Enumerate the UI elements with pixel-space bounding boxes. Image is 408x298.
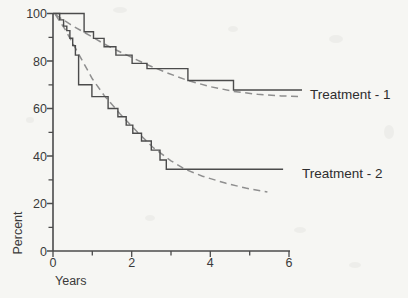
y-tick-label-80: 80 [33,55,47,69]
y-tick-label-60: 60 [33,102,47,116]
x-axis-title: Years [55,274,87,288]
x-tick-label-4: 4 [207,256,214,270]
y-tick-label-20: 20 [33,197,47,211]
scan-artifacts [26,7,394,268]
x-tick-label-2: 2 [128,256,135,270]
y-tick-label-100: 100 [26,7,47,21]
survival-chart: 100 80 60 40 20 0 0 2 4 6 Percent Years … [0,0,408,298]
treatment-2-km-curve [53,14,283,170]
treatment-1-label: Treatment - 1 [310,87,391,102]
x-tick-label-6: 6 [286,256,293,270]
y-tick-label-0: 0 [40,245,47,259]
treatment-2-fit-curve [55,15,267,192]
y-tick-label-40: 40 [33,150,47,164]
y-axis-title: Percent [11,211,25,255]
treatment-1-km-curve [53,14,302,91]
survival-chart-page: 100 80 60 40 20 0 0 2 4 6 Percent Years … [0,0,408,298]
treatment-2-label: Treatment - 2 [302,166,383,181]
x-tick-label-0: 0 [50,256,57,270]
axis-ticks [47,14,289,258]
